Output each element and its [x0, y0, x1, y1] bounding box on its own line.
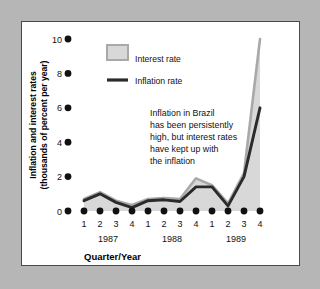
annotation-line-1: Inflation in Brazil: [150, 108, 215, 118]
y-axis-title-line1: Inflation and interest rates: [28, 71, 38, 179]
x-tick-label-q2-1988: 2: [161, 219, 166, 229]
x-tick-dot-10: [225, 208, 232, 215]
annotation-line-3: high, but interest rates: [150, 132, 238, 142]
x-tick-label-q2-1987: 2: [97, 219, 102, 229]
x-tick-label-q2-1989: 2: [225, 219, 230, 229]
x-axis-year-labels: 1987 1988 1989: [98, 234, 246, 244]
x-tick-dot-8: [193, 208, 200, 215]
y-tick-label-4: 4: [57, 138, 62, 148]
y-tick-label-6: 6: [57, 103, 62, 113]
x-tick-label-q4-1988: 4: [193, 219, 198, 229]
annotation-line-2: has been persistently: [150, 120, 234, 130]
x-tick-label-q3-1989: 3: [241, 219, 246, 229]
x-tick-label-q3-1988: 3: [177, 219, 182, 229]
x-tick-dot-4: [129, 208, 136, 215]
x-tick-dot-3: [113, 208, 120, 215]
x-tick-label-q1-1987: 1: [81, 219, 86, 229]
x-tick-label-q3-1987: 3: [113, 219, 118, 229]
x-tick-dot-2: [97, 208, 104, 215]
y-tick-dot-0: [65, 208, 72, 215]
legend-label-interest-rate: Interest rate: [135, 54, 181, 64]
x-tick-label-q1-1988: 1: [145, 219, 150, 229]
annotation-line-4: have kept up with: [150, 144, 219, 154]
legend-swatch-interest-rate: [107, 45, 128, 60]
y-tick-dot-8: [65, 70, 72, 77]
y-tick-label-10: 10: [52, 35, 62, 45]
annotation-line-5: the inflation: [150, 156, 195, 166]
year-label-1989: 1989: [226, 234, 246, 244]
x-axis-title: Quarter/Year: [84, 251, 141, 262]
x-tick-dot-9: [209, 208, 216, 215]
legend-label-inflation-rate: Inflation rate: [135, 76, 183, 86]
x-tick-dot-11: [241, 208, 248, 215]
x-tick-dot-12: [257, 208, 264, 215]
y-tick-label-8: 8: [57, 69, 62, 79]
y-axis-title: Inflation and interest rates (thousands …: [28, 60, 49, 189]
x-tick-label-q1-1989: 1: [209, 219, 214, 229]
y-tick-dot-6: [65, 104, 72, 111]
y-axis: 10 8 6 4 2 0: [52, 35, 71, 217]
y-tick-dot-4: [65, 139, 72, 146]
x-axis-labels: 1 2 3 4 1 2 3 4 1 2 3 4: [81, 219, 262, 229]
x-tick-dot-7: [177, 208, 184, 215]
year-label-1988: 1988: [162, 234, 182, 244]
x-tick-dot-5: [145, 208, 152, 215]
y-tick-label-2: 2: [57, 172, 62, 182]
x-tick-label-q4-1989: 4: [257, 219, 262, 229]
y-tick-label-0: 0: [57, 207, 62, 217]
y-tick-dot-2: [65, 173, 72, 180]
y-axis-title-line2: (thousands of percent per year): [39, 60, 49, 189]
figure-root: 10 8 6 4 2 0: [0, 0, 320, 289]
chart-plot-area: 10 8 6 4 2 0: [22, 22, 299, 265]
y-tick-dot-10: [65, 36, 72, 43]
x-tick-label-q4-1987: 4: [129, 219, 134, 229]
x-tick-dot-1: [81, 208, 88, 215]
chart-panel: 10 8 6 4 2 0: [21, 21, 300, 266]
chart-legend: Interest rate Inflation rate: [107, 45, 183, 86]
x-tick-dot-6: [161, 208, 168, 215]
year-label-1987: 1987: [98, 234, 118, 244]
chart-annotation-brazil-note: Inflation in Brazil has been persistentl…: [150, 108, 238, 166]
